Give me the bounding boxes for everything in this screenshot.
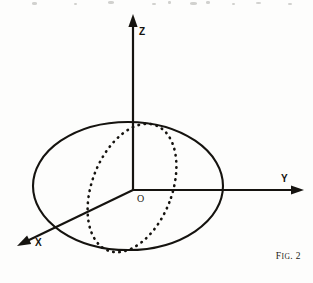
x-axis-label: X [35,238,42,248]
figure-page: Z Y X O FIG. 2 [0,0,313,283]
caption-smallcaps: IG [281,252,290,261]
z-axis-label: Z [139,27,145,37]
y-axis-arrowhead [291,185,304,194]
x-axis-arrowhead [17,236,31,247]
origin-label: O [137,194,144,204]
coordinate-sphere-diagram [0,0,313,283]
sphere-outline [33,122,223,250]
figure-caption: FIG. 2 [276,252,301,262]
y-axis-label: Y [281,174,288,184]
z-axis-arrowhead [128,14,137,27]
caption-number: . 2 [290,251,301,261]
